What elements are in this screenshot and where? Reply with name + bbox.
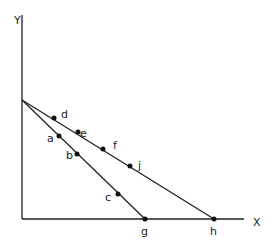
point-label-b: b <box>66 149 73 162</box>
point-a <box>57 134 62 139</box>
point-label-d: d <box>61 108 68 121</box>
x-axis-label: X <box>253 216 261 229</box>
outer-line <box>22 100 214 219</box>
point-label-a: a <box>47 132 54 145</box>
point-g <box>143 217 148 222</box>
point-h <box>212 217 217 222</box>
point-f <box>101 147 106 152</box>
y-axis-label: Y <box>13 14 21 27</box>
diagram: Y X defjabcgh <box>0 0 274 251</box>
point-label-j: j <box>137 159 141 172</box>
point-label-g: g <box>141 225 148 238</box>
point-label-e: e <box>80 127 87 140</box>
point-label-c: c <box>105 191 111 204</box>
point-label-f: f <box>113 139 118 152</box>
point-label-h: h <box>210 225 217 238</box>
point-c <box>116 192 121 197</box>
point-b <box>75 152 80 157</box>
point-j <box>128 164 133 169</box>
point-d <box>52 116 57 121</box>
line-diagram: Y X defjabcgh <box>0 0 274 251</box>
inner-line <box>22 100 145 219</box>
